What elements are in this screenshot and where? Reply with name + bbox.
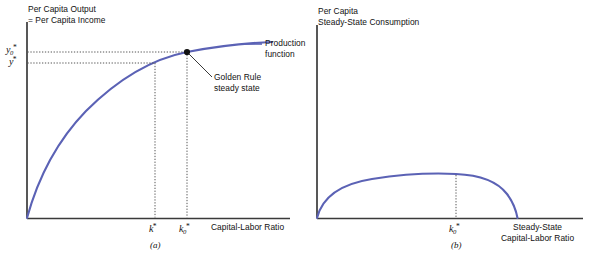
panel-a-group bbox=[27, 22, 290, 219]
production-function-label-line2: function bbox=[265, 49, 295, 60]
production-function-curve bbox=[27, 42, 272, 218]
panel-a-y-axis-title-line1: Per Capita Output bbox=[28, 4, 96, 15]
panel-a-x-tick-k-star: k* bbox=[149, 222, 156, 235]
production-function-label-line1: Production bbox=[265, 38, 306, 49]
panel-b-x-tick-k0-star: k0* bbox=[449, 222, 460, 235]
x-tick-0-sup: * bbox=[153, 222, 157, 231]
panel-b-x-axis-title-line2: Capital-Labor Ratio bbox=[501, 233, 574, 244]
panel-b-caption: (b) bbox=[451, 240, 462, 250]
panel-a-y-tick-y0-star: y0* bbox=[6, 43, 17, 56]
y-tick-1-sup: * bbox=[13, 55, 17, 64]
steady-state-consumption-curve bbox=[317, 174, 518, 218]
golden-rule-leader-line bbox=[189, 54, 212, 77]
panel-b-group bbox=[317, 25, 583, 219]
figure-root: Per Capita Output = Per Capita Income y0… bbox=[0, 0, 591, 257]
panel-a-caption: (a) bbox=[150, 240, 161, 250]
panel-a-x-tick-k0-star: k0* bbox=[179, 222, 190, 235]
panel-b-x-axis-title-line1: Steady-State bbox=[513, 222, 562, 233]
x-tick-1-sup: * bbox=[186, 222, 190, 231]
golden-rule-label-line2: steady state bbox=[214, 83, 260, 94]
golden-rule-label-line1: Golden Rule bbox=[214, 72, 261, 83]
panel-b-x-tick-0-sup: * bbox=[456, 222, 460, 231]
panel-a-y-axis-title-line2: = Per Capita Income bbox=[28, 15, 106, 26]
y-tick-0-sup: * bbox=[13, 43, 17, 52]
panel-a-y-tick-y-star: y* bbox=[9, 55, 16, 68]
panel-a-x-axis-title: Capital-Labor Ratio bbox=[211, 222, 284, 233]
panel-b-y-axis-title-line2: Steady-State Consumption bbox=[318, 17, 419, 28]
panel-b-y-axis-title-line1: Per Capita bbox=[318, 6, 358, 17]
